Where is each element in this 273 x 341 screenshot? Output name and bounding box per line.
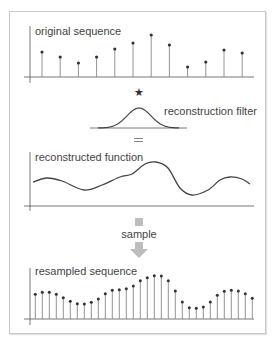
sample-dot [195,307,198,310]
sample-dot [251,297,254,300]
sample-dot [168,43,171,46]
sample-dot [59,55,62,58]
sample-dot [186,65,189,68]
sample-dot [150,33,153,36]
sample-dot [188,306,191,309]
sample-dot [76,302,79,305]
sample-dot [55,293,58,296]
sample-dot [132,285,135,288]
sample-dot [241,51,244,54]
sample-dot [139,279,142,282]
sample-dot [41,291,44,294]
sample-label: sample [121,228,156,240]
sample-dot [104,292,107,295]
reconstructed-function-panel: reconstructed function [24,151,254,211]
sample-dot [244,292,247,295]
sample-dot [69,300,72,303]
reconstructed-curve [33,162,250,195]
convolution-star-icon: ★ [134,86,144,98]
down-arrow-icon [130,242,148,258]
original-stems [40,33,243,77]
sample-dot [167,279,170,282]
sample-dot [62,296,65,299]
sample-dot [95,55,98,58]
diagram-canvas: original sequence ★ reconstruction filte… [0,0,273,341]
sample-dot [223,290,226,293]
arrow-stem-icon [135,218,143,226]
equals-icon [134,139,143,142]
reconstructed-function-label: reconstructed function [35,151,143,163]
sample-dot [222,48,225,51]
sample-dot [209,301,212,304]
sample-dot [77,61,80,64]
sample-step: sample [121,218,156,258]
sample-dot [216,294,219,297]
resampled-sequence-label: resampled sequence [35,265,137,277]
sample-dot [174,290,177,293]
sample-dot [146,276,149,279]
sample-dot [48,291,51,294]
sample-dot [230,289,233,292]
reconstruction-filter-panel: reconstruction filter [90,105,257,128]
sample-dot [153,274,156,277]
original-sequence-panel: original sequence [24,25,254,83]
sample-dot [202,306,205,309]
sample-dot [113,47,116,50]
sample-dot [40,50,43,53]
sample-dot [204,60,207,63]
sample-dot [118,288,121,291]
sample-dot [97,298,100,301]
reconstruction-filter-label: reconstruction filter [164,105,257,117]
resampled-sequence-panel: resampled sequence [24,265,254,325]
original-sequence-label: original sequence [35,25,121,37]
sample-dot [160,275,163,278]
sample-dot [181,301,184,304]
sample-dot [90,301,93,304]
sample-dot [111,289,114,292]
sample-dot [125,287,128,290]
resampled-stems [34,274,254,319]
sample-dot [237,290,240,293]
sample-dot [83,303,86,306]
sample-dot [131,41,134,44]
sample-dot [34,293,37,296]
